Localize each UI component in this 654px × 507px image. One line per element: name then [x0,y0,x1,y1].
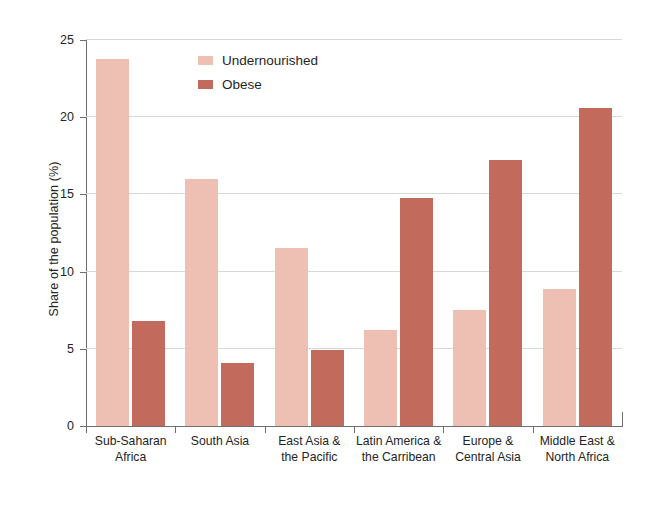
y-tick-label: 15 [34,187,74,201]
x-axis-label: Latin America &the Carribean [354,434,443,465]
x-axis-label: Sub-SaharanAfrica [86,434,175,465]
bar-undernourished[interactable] [543,289,576,426]
bar-group [443,40,532,426]
x-axis-label-line: Africa [86,450,175,466]
legend-label-obese: Obese [222,77,262,92]
y-tick-label: 25 [34,33,74,47]
x-axis-label-line: Latin America & [354,434,443,450]
plot-area [86,40,622,426]
x-axis-label-line: Europe & [443,434,532,450]
bar-undernourished[interactable] [185,179,218,426]
x-axis-label-line: East Asia & [265,434,354,450]
bar-obese[interactable] [489,160,522,426]
legend-item-obese[interactable]: Obese [198,72,318,96]
x-tick-mark [86,426,87,433]
y-tick-label-group: 0510152025 [30,0,74,507]
bar-group [533,40,622,426]
y-tick-label: 5 [34,342,74,356]
x-axis-label-group: Sub-SaharanAfricaSouth AsiaEast Asia &th… [86,434,622,494]
x-tick-mark [533,426,534,433]
bar-obese[interactable] [132,321,165,426]
bar-group [265,40,354,426]
x-axis-label-line: Sub-Saharan [86,434,175,450]
bar-undernourished[interactable] [275,248,308,426]
y-tick-label: 20 [34,110,74,124]
legend-swatch-obese [198,80,213,89]
x-tick-mark [354,426,355,433]
x-axis-label-line: the Carribean [354,450,443,466]
bar-obese[interactable] [221,363,254,426]
x-axis-label-line: Central Asia [443,450,532,466]
y-tick-label: 0 [34,419,74,433]
bar-undernourished[interactable] [453,310,486,426]
x-axis-label-line: North Africa [533,450,622,466]
x-axis-label-line: the Pacific [265,450,354,466]
x-tick-mark [175,426,176,433]
bar-obese[interactable] [400,198,433,427]
x-axis-label: Europe &Central Asia [443,434,532,465]
bar-chart-figure: Share of the population (%) 0510152025 S… [0,0,654,507]
x-tick-mark [265,426,266,433]
x-axis-label: East Asia &the Pacific [265,434,354,465]
legend-swatch-undernourished [198,56,213,65]
legend-item-undernourished[interactable]: Undernourished [198,48,318,72]
bar-undernourished[interactable] [96,59,129,426]
bar-obese[interactable] [311,350,344,426]
x-axis-label-line: South Asia [175,434,264,450]
x-tick-mark [443,426,444,433]
bar-group [86,40,175,426]
y-tick-label: 10 [34,265,74,279]
chart-legend: Undernourished Obese [198,48,318,96]
bar-obese[interactable] [579,108,612,426]
bar-group [175,40,264,426]
bar-undernourished[interactable] [364,330,397,426]
bar-group [354,40,443,426]
x-axis-label-line: Middle East & [533,434,622,450]
x-axis-label: South Asia [175,434,264,450]
x-axis-label: Middle East &North Africa [533,434,622,465]
x-axis-right-cap [622,412,623,427]
legend-label-undernourished: Undernourished [222,53,318,68]
